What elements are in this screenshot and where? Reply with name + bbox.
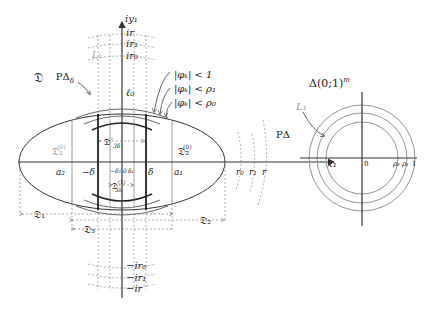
domain-label: 𝔇 bbox=[34, 70, 44, 85]
y1-axis-label: iy₁ bbox=[125, 13, 138, 24]
region-d2: 𝔇₂ bbox=[200, 215, 211, 226]
region-d2-0: 𝔇₂(0) bbox=[178, 143, 192, 157]
right-figure: Δ(0;1)m L₁ 0 ρ₀ ρ₁ 1 bbox=[295, 76, 417, 226]
region-d3delta1: 𝔇(1)3δ₁ bbox=[112, 179, 125, 193]
mark-a1: a₁ bbox=[174, 167, 183, 177]
mark-r: r bbox=[262, 167, 267, 177]
mark-rho1: ρ₁ bbox=[401, 160, 409, 168]
mark-a2: a₂ bbox=[56, 167, 65, 177]
mark-ir0: ir₀ bbox=[126, 50, 138, 61]
mark-neg-ir1: −ir₁ bbox=[126, 272, 146, 283]
p-delta-label: PΔ bbox=[276, 129, 290, 140]
ineq-rho1: |φₖ| < ρ₁ bbox=[174, 83, 216, 95]
mark-r1: r₁ bbox=[249, 167, 257, 177]
mark-zero: 0 bbox=[123, 167, 127, 174]
mark-neg-ir0: −ir₀ bbox=[126, 260, 146, 271]
l0-label: ℓ₀ bbox=[126, 87, 134, 98]
mark-r0: r₀ bbox=[236, 167, 244, 177]
region-d1-0: 𝔇₁(0) bbox=[52, 143, 66, 157]
left-figure: 𝔇 iy₁ x₁ ir ir₁ ir₀ −ir₀ −ir₁ −ir ℓ₀ PΔδ… bbox=[18, 13, 337, 298]
mark-neg-ir: −ir bbox=[126, 283, 144, 294]
ineq-1: |φₖ| < 1 bbox=[174, 69, 213, 81]
mark-rho0: ρ₀ bbox=[392, 160, 400, 168]
x1-axis-label: x₁ bbox=[327, 158, 337, 169]
mark-ir: ir bbox=[126, 27, 135, 38]
unit-polydisc-title: Δ(0;1)m bbox=[309, 76, 350, 90]
region-d3: 𝔇₃ bbox=[84, 224, 95, 235]
diagram-canvas: 𝔇 iy₁ x₁ ir ir₁ ir₀ −ir₀ −ir₁ −ir ℓ₀ PΔδ… bbox=[0, 0, 433, 313]
mark-minus-delta1: −δ₁ bbox=[110, 167, 121, 174]
ineq-rho0: |φₖ| < ρ₀ bbox=[174, 97, 216, 109]
mark-delta: δ bbox=[148, 167, 153, 177]
mark-one: 1 bbox=[412, 160, 416, 168]
mark-minus-delta: −δ bbox=[82, 167, 95, 177]
region-d3delta-prime: 𝔇′3δ bbox=[104, 137, 121, 149]
l1-label: L₁ bbox=[295, 101, 307, 112]
p-delta-delta-label: PΔδ bbox=[56, 71, 74, 85]
mark-ir1: ir₁ bbox=[126, 38, 138, 49]
region-d1: 𝔇₁ bbox=[34, 209, 45, 220]
origin-label: 0 bbox=[364, 160, 368, 168]
faint-l1-label: L₁ bbox=[91, 50, 102, 60]
mark-delta1: δ₁ bbox=[128, 167, 134, 174]
